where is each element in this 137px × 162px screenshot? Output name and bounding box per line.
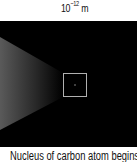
scale-unit: m [79, 2, 88, 14]
caption: Nucleus of carbon atom begins to a [10, 149, 137, 162]
nucleus-dot [74, 84, 76, 86]
scale-label: 10−12 m [15, 1, 125, 14]
zoom-box [63, 73, 87, 97]
zoom-panel [0, 21, 137, 147]
scale-base: 10 [61, 2, 70, 14]
scale-exponent: −12 [70, 0, 79, 7]
